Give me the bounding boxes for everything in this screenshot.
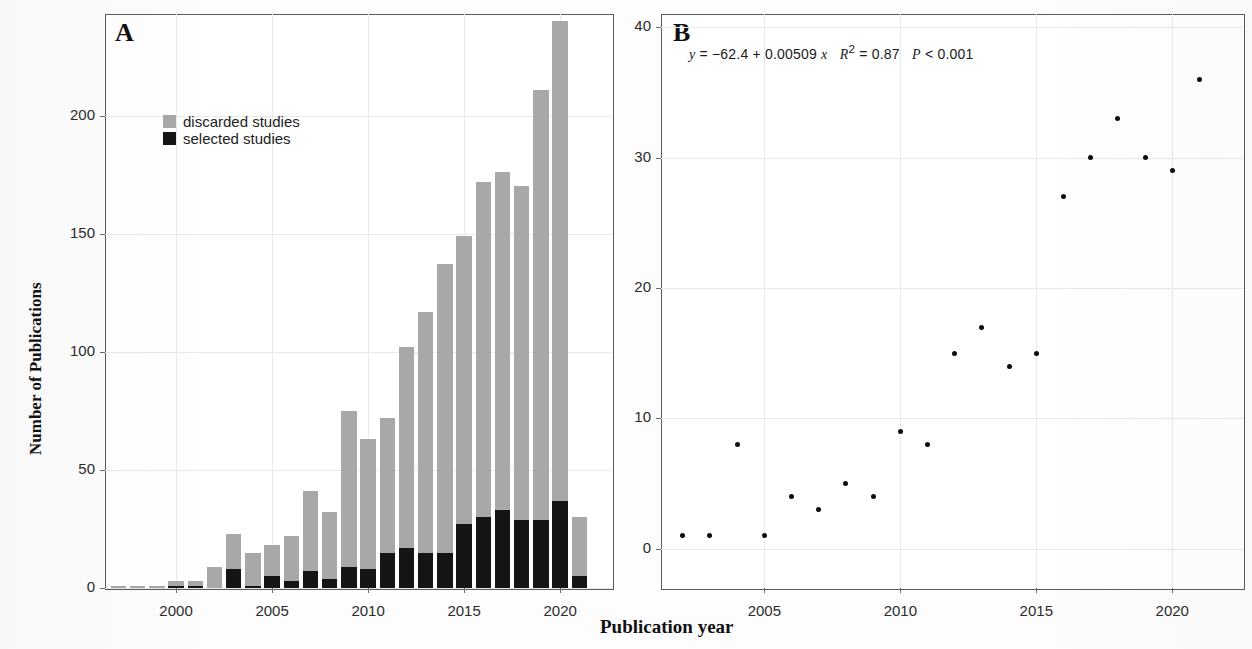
bar-segment-selected (264, 576, 279, 588)
bar-year-2002 (207, 567, 222, 588)
bar-year-2007 (303, 491, 318, 588)
panel-a-x-tick-mark (560, 588, 561, 593)
bar-year-1997 (111, 586, 126, 588)
bar-segment-selected (168, 586, 183, 588)
panel-a-x-tick-mark (464, 588, 465, 593)
bar-segment-discarded (495, 172, 510, 510)
legend-swatch (163, 132, 176, 145)
bar-segment-selected (552, 501, 567, 588)
bar-year-2006 (284, 536, 299, 588)
panel-a-y-tick-label: 100 (43, 342, 95, 359)
bar-year-2015 (456, 236, 471, 588)
bar-year-2000 (168, 581, 183, 588)
bar-segment-discarded (399, 347, 414, 548)
bar-segment-discarded (533, 90, 548, 520)
panel-b-regression-fit (626, 0, 1252, 649)
bar-year-2021 (572, 517, 587, 588)
bar-year-2009 (341, 411, 356, 588)
bar-segment-discarded (380, 418, 395, 553)
bar-segment-selected (437, 553, 452, 588)
figure-root: A Number of Publications 050100150200 20… (0, 0, 1252, 649)
bar-year-2004 (245, 553, 260, 588)
panel-b: B y = −62.4 + 0.00509 x R2 = 0.87 P < 0.… (626, 0, 1252, 649)
bar-year-1998 (130, 586, 145, 588)
bar-segment-selected (495, 510, 510, 588)
bar-year-2018 (514, 186, 529, 588)
legend-swatch (163, 115, 176, 128)
bar-year-2011 (380, 418, 395, 588)
scatter-point-2014 (1007, 364, 1012, 369)
panel-a-x-tick-mark (368, 588, 369, 593)
panel-a-x-tick-label: 2005 (242, 602, 302, 619)
panel-a-y-tick-mark (100, 470, 105, 471)
bar-segment-selected (533, 520, 548, 589)
bar-segment-selected (514, 520, 529, 589)
panel-a-gridline-v (176, 14, 177, 588)
bar-segment-selected (360, 569, 375, 588)
bar-segment-discarded (264, 545, 279, 576)
panel-a-x-tick-mark (176, 588, 177, 593)
bar-segment-selected (284, 581, 299, 588)
legend-label: discarded studies (183, 113, 300, 130)
bar-segment-discarded (360, 439, 375, 569)
panel-a-y-tick-mark (100, 234, 105, 235)
panel-a-gridline-h (105, 588, 612, 589)
panel-a-y-tick-label: 150 (43, 224, 95, 241)
scatter-point-2004 (735, 442, 740, 447)
bar-year-2010 (360, 439, 375, 588)
bar-year-2017 (495, 172, 510, 588)
legend-item-discarded: discarded studies (163, 113, 300, 130)
bar-segment-discarded (130, 586, 145, 588)
scatter-point-2010 (898, 429, 903, 434)
bar-segment-discarded (322, 512, 337, 578)
bar-year-2003 (226, 534, 241, 588)
bar-year-1999 (149, 586, 164, 588)
panel-a-y-tick-mark (100, 116, 105, 117)
bar-segment-selected (341, 567, 356, 588)
scatter-point-2015 (1034, 351, 1039, 356)
panel-a-y-tick-label: 0 (43, 578, 95, 595)
bar-segment-selected (380, 553, 395, 588)
panel-a-letter: A (115, 18, 134, 48)
bar-segment-discarded (303, 491, 318, 571)
bar-segment-discarded (207, 567, 222, 588)
panel-a-y-tick-mark (100, 352, 105, 353)
legend-label: selected studies (183, 130, 291, 147)
bar-segment-discarded (572, 517, 587, 576)
bar-segment-selected (399, 548, 414, 588)
bar-segment-discarded (341, 411, 356, 567)
bar-year-2005 (264, 545, 279, 588)
bar-year-2020 (552, 21, 567, 588)
panel-a-y-tick-mark (100, 588, 105, 589)
bar-year-2016 (476, 182, 491, 588)
bar-year-2013 (418, 312, 433, 588)
bar-segment-discarded (552, 21, 567, 501)
scatter-point-2021 (1197, 77, 1202, 82)
bar-segment-discarded (111, 586, 126, 588)
panel-a-x-tick-mark (272, 588, 273, 593)
bar-segment-discarded (456, 236, 471, 524)
bar-year-2012 (399, 347, 414, 588)
panel-a-legend: discarded studiesselected studies (163, 113, 300, 147)
panel-a-y-axis-title: Number of Publications (26, 282, 46, 455)
bar-segment-discarded (476, 182, 491, 517)
panel-a-y-tick-label: 50 (43, 460, 95, 477)
bar-year-2019 (533, 90, 548, 588)
legend-item-selected: selected studies (163, 130, 300, 147)
bar-segment-discarded (418, 312, 433, 553)
bar-segment-selected (226, 569, 241, 588)
panel-a-x-tick-label: 2010 (338, 602, 398, 619)
bar-segment-selected (456, 524, 471, 588)
scatter-point-2020 (1170, 168, 1175, 173)
bar-segment-discarded (514, 186, 529, 519)
bar-segment-selected (245, 586, 260, 588)
scatter-point-2011 (925, 442, 930, 447)
bar-year-2001 (188, 581, 203, 588)
shared-x-axis-title: Publication year (600, 616, 734, 638)
panel-a-gridline-v (272, 14, 273, 588)
bar-segment-selected (188, 586, 203, 588)
panel-a-x-tick-label: 2020 (530, 602, 590, 619)
panel-a: A Number of Publications 050100150200 20… (0, 0, 626, 649)
bar-segment-selected (303, 571, 318, 588)
scatter-point-2019 (1143, 155, 1148, 160)
